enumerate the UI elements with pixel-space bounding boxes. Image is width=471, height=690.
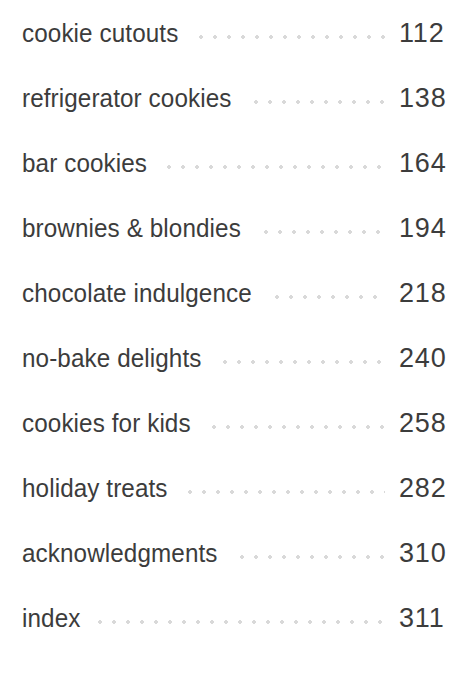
dot-leader [188,490,385,494]
dot-leader [240,555,385,559]
toc-entry-page-number: 218 [399,280,461,307]
toc-entry-title: no-bake delights [22,346,202,371]
dot-leader [167,165,385,169]
toc-entry-title: holiday treats [22,476,168,501]
dot-leader [98,620,385,624]
dot-leader [223,360,385,364]
toc-entry-page-number: 138 [399,85,461,112]
toc-entry-title: cookies for kids [22,411,191,436]
toc-entry[interactable]: acknowledgments 310 [0,540,471,605]
toc-entry-page-number: 194 [399,215,461,242]
toc-entry-title: bar cookies [22,151,147,176]
dot-leader [275,295,385,299]
toc-entry-page-number: 164 [399,150,461,177]
toc-entry-title: brownies & blondies [22,216,241,241]
toc-entry-page-number: 282 [399,475,461,502]
toc-entry[interactable]: bar cookies 164 [0,150,471,215]
toc-entry[interactable]: cookie cutouts 112 [0,20,471,85]
toc-entry[interactable]: index 311 [0,605,471,670]
table-of-contents-page: cookie cutouts 112 refrigerator cookies … [0,0,471,690]
dot-leader [254,100,385,104]
toc-entry[interactable]: cookies for kids 258 [0,410,471,475]
toc-entry-title: acknowledgments [22,541,218,566]
toc-entry-list: cookie cutouts 112 refrigerator cookies … [0,20,471,670]
toc-entry[interactable]: holiday treats 282 [0,475,471,540]
dot-leader [199,35,385,39]
toc-entry-page-number: 311 [399,605,461,632]
dot-leader [264,230,385,234]
dot-leader [212,425,385,429]
toc-entry-page-number: 258 [399,410,461,437]
toc-entry-title: index [22,606,80,631]
toc-entry-page-number: 310 [399,540,461,567]
toc-entry[interactable]: refrigerator cookies 138 [0,85,471,150]
toc-entry-title: cookie cutouts [22,21,178,46]
toc-entry[interactable]: chocolate indulgence 218 [0,280,471,345]
toc-entry-page-number: 112 [399,20,461,47]
toc-entry[interactable]: brownies & blondies 194 [0,215,471,280]
toc-entry[interactable]: no-bake delights 240 [0,345,471,410]
toc-entry-title: refrigerator cookies [22,86,232,111]
toc-entry-page-number: 240 [399,345,461,372]
toc-entry-title: chocolate indulgence [22,281,252,306]
